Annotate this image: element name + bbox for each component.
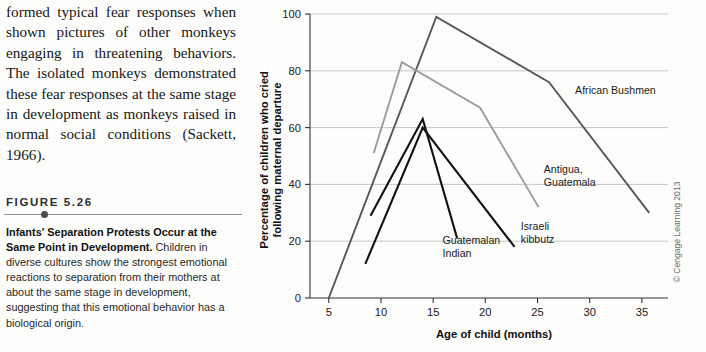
- x-tick-label-15: 15: [427, 306, 439, 318]
- y-tick-label-40: 40: [289, 178, 301, 190]
- figure-caption: Infants' Separation Protests Occur at th…: [6, 225, 240, 331]
- data-series: [329, 17, 649, 298]
- figure-divider: [4, 213, 242, 216]
- x-tick-label-25: 25: [531, 306, 543, 318]
- y-tick-label-80: 80: [289, 65, 301, 77]
- series-label-antigua-guatemala-l1: Antigua,: [544, 163, 583, 175]
- chart-column: 020406080100 5101520253035 African Bushm…: [248, 0, 706, 352]
- x-tick-label-35: 35: [636, 306, 648, 318]
- figure-number: FIGURE 5.26: [6, 196, 242, 208]
- y-tick-label-60: 60: [289, 122, 301, 134]
- chart-axes: [310, 14, 668, 298]
- body-paragraph: formed typical fear responses when shown…: [4, 2, 240, 165]
- y-tick-label-0: 0: [295, 292, 301, 304]
- series-label-antigua-guatemala-l2: Guatemala: [544, 176, 596, 188]
- y-tick-label-100: 100: [282, 8, 301, 20]
- series-label-african-bushmen: African Bushmen: [575, 84, 656, 96]
- series-label-guatemalan-indian-l2: Indian: [443, 247, 472, 259]
- caption-body: Children in diverse cultures show the st…: [6, 241, 227, 328]
- series-annotations: African BushmenAntigua,GuatemalaGuatemal…: [443, 84, 656, 260]
- x-tick-label-20: 20: [479, 306, 491, 318]
- y-tick-label-20: 20: [289, 235, 301, 247]
- divider-dot: [41, 211, 48, 218]
- series-label-israeli-kibbutz-l1: Israeli: [521, 220, 549, 232]
- y-axis-title-line2: following maternal departure: [271, 82, 283, 237]
- copyright-notice: © Cengage Learning 2013: [672, 181, 682, 282]
- axis-ticks: [305, 14, 642, 303]
- divider-line: [4, 214, 242, 215]
- y-axis-title-line1: Percentage of children who cried: [258, 71, 270, 249]
- series-label-israeli-kibbutz-l2: kibbutz: [521, 233, 555, 245]
- line-chart: 020406080100 5101520253035 African Bushm…: [248, 0, 706, 352]
- x-tick-label-30: 30: [583, 306, 595, 318]
- x-axis-title: Age of child (months): [436, 328, 552, 340]
- x-tick-label-5: 5: [326, 306, 332, 318]
- y-tick-labels: 020406080100: [282, 8, 301, 304]
- figure-caption-block: FIGURE 5.26 Infants' Separation Protests…: [4, 196, 242, 331]
- text-column: formed typical fear responses when shown…: [0, 0, 248, 352]
- series-label-guatemalan-indian-l1: Guatemalan: [443, 234, 501, 246]
- series-line-african-bushmen: [329, 17, 649, 298]
- figure-page: formed typical fear responses when shown…: [0, 0, 706, 352]
- x-tick-label-10: 10: [375, 306, 387, 318]
- x-tick-labels: 5101520253035: [326, 306, 648, 318]
